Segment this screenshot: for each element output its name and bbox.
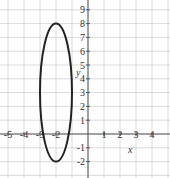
y-tick-label: -2: [77, 156, 85, 167]
x-tick-label: 2: [118, 129, 123, 140]
y-tick-label: 5: [80, 60, 85, 71]
y-tick-label: 1: [80, 115, 85, 126]
axes: [0, 0, 170, 178]
y-tick-label: 4: [80, 73, 85, 84]
y-tick-label: 6: [80, 46, 85, 57]
x-tick-label: -2: [52, 129, 60, 140]
x-tick-label: 3: [134, 129, 139, 140]
grid: [0, 0, 170, 178]
ellipse-chart: -5-4-3-21234987654321-1-2 x y: [0, 0, 170, 178]
y-tick-label: 2: [80, 101, 85, 112]
tick-labels: -5-4-3-21234987654321-1-2: [4, 4, 155, 167]
x-tick-label: -5: [4, 129, 12, 140]
x-tick-label: -4: [20, 129, 28, 140]
y-tick-label: 3: [80, 87, 85, 98]
x-axis-label: x: [127, 144, 133, 155]
y-tick-label: 9: [80, 4, 85, 15]
y-tick-label: -1: [77, 142, 85, 153]
y-axis-label: y: [75, 67, 81, 78]
x-tick-label: 4: [150, 129, 155, 140]
y-tick-label: 7: [80, 32, 85, 43]
x-tick-label: 1: [102, 129, 107, 140]
y-tick-label: 8: [80, 18, 85, 29]
